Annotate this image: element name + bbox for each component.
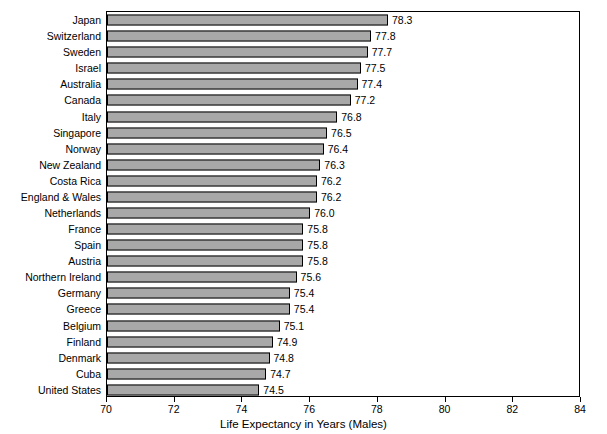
x-tick	[377, 397, 378, 402]
bar-value-label: 75.8	[307, 224, 327, 235]
bar-row: United States74.5	[107, 382, 581, 398]
bar-value-label: 74.8	[274, 352, 294, 363]
category-label: Japan	[72, 15, 101, 26]
bar-row: Sweden77.7	[107, 44, 581, 60]
bar-row: Finland74.9	[107, 334, 581, 350]
category-label: France	[68, 224, 101, 235]
bar-value-label: 77.5	[365, 63, 385, 74]
bar	[107, 384, 259, 395]
bar-row: Netherlands76.0	[107, 205, 581, 221]
bar	[107, 159, 320, 170]
bar	[107, 207, 310, 218]
category-label: Italy	[82, 111, 101, 122]
category-label: Austria	[68, 256, 101, 267]
bar-row: Switzerland77.8	[107, 28, 581, 44]
bar-row: Costa Rica76.2	[107, 173, 581, 189]
x-tick	[174, 397, 175, 402]
category-label: Netherlands	[44, 207, 101, 218]
bars-container: Japan78.3Switzerland77.8Sweden77.7Israel…	[107, 12, 581, 398]
bar-row: France75.8	[107, 221, 581, 237]
bar-row: Austria75.8	[107, 253, 581, 269]
bar-value-label: 76.0	[314, 207, 334, 218]
x-axis-label: Life Expectancy in Years (Males)	[0, 418, 607, 430]
bar-value-label: 75.4	[294, 288, 314, 299]
category-label: Belgium	[63, 320, 101, 331]
x-tick-label: 78	[371, 403, 383, 415]
category-label: New Zealand	[39, 159, 101, 170]
category-label: Costa Rica	[50, 175, 101, 186]
category-label: Denmark	[58, 352, 101, 363]
bar	[107, 352, 270, 363]
x-tick	[445, 397, 446, 402]
category-label: Cuba	[76, 368, 101, 379]
bar-value-label: 74.5	[263, 384, 283, 395]
bar-row: Israel77.5	[107, 60, 581, 76]
bar-value-label: 76.2	[321, 191, 341, 202]
bar-value-label: 77.4	[362, 79, 382, 90]
category-label: Finland	[67, 336, 101, 347]
category-label: Canada	[64, 95, 101, 106]
bar-row: Italy76.8	[107, 108, 581, 124]
category-label: Spain	[74, 240, 101, 251]
x-tick-label: 84	[574, 403, 586, 415]
bar	[107, 224, 303, 235]
category-label: United States	[38, 384, 101, 395]
bar-value-label: 75.4	[294, 304, 314, 315]
bar	[107, 47, 368, 58]
category-label: Israel	[75, 63, 101, 74]
category-label: Greece	[67, 304, 101, 315]
bar-row: Germany75.4	[107, 285, 581, 301]
bar-row: Greece75.4	[107, 301, 581, 317]
bar-row: Denmark74.8	[107, 350, 581, 366]
category-label: Germany	[58, 288, 101, 299]
bar-row: Japan78.3	[107, 12, 581, 28]
bar-value-label: 75.1	[284, 320, 304, 331]
bar	[107, 31, 371, 42]
bar-row: Singapore76.5	[107, 125, 581, 141]
x-tick	[512, 397, 513, 402]
bar	[107, 79, 358, 90]
x-tick-label: 80	[439, 403, 451, 415]
category-label: England & Wales	[21, 191, 101, 202]
bar-row: Canada77.2	[107, 92, 581, 108]
bar-row: Belgium75.1	[107, 317, 581, 333]
x-tick-label: 72	[168, 403, 180, 415]
bar-row: Norway76.4	[107, 141, 581, 157]
bar-row: Australia77.4	[107, 76, 581, 92]
category-label: Switzerland	[47, 31, 101, 42]
bar-value-label: 75.8	[307, 240, 327, 251]
bar-chart: Japan78.3Switzerland77.8Sweden77.7Israel…	[0, 0, 607, 434]
category-label: Norway	[65, 143, 101, 154]
bar	[107, 175, 317, 186]
bar-value-label: 74.9	[277, 336, 297, 347]
bar	[107, 127, 327, 138]
bar	[107, 304, 290, 315]
bar-row: New Zealand76.3	[107, 157, 581, 173]
bar-value-label: 76.3	[324, 159, 344, 170]
bar	[107, 63, 361, 74]
bar-row: Northern Ireland75.6	[107, 269, 581, 285]
bar	[107, 368, 266, 379]
bar	[107, 256, 303, 267]
bar	[107, 336, 273, 347]
bar	[107, 320, 280, 331]
bar	[107, 191, 317, 202]
bar-value-label: 76.4	[328, 143, 348, 154]
bar-value-label: 76.8	[341, 111, 361, 122]
bar-row: Spain75.8	[107, 237, 581, 253]
plot-area: Japan78.3Switzerland77.8Sweden77.7Israel…	[106, 11, 580, 397]
bar	[107, 143, 324, 154]
x-tick	[309, 397, 310, 402]
x-tick	[241, 397, 242, 402]
bar-value-label: 76.5	[331, 127, 351, 138]
category-label: Northern Ireland	[25, 272, 101, 283]
bar	[107, 15, 388, 26]
bar-value-label: 75.8	[307, 256, 327, 267]
bar-value-label: 77.2	[355, 95, 375, 106]
bar-row: Cuba74.7	[107, 366, 581, 382]
x-tick-label: 74	[236, 403, 248, 415]
bar-value-label: 76.2	[321, 175, 341, 186]
bar-value-label: 77.7	[372, 47, 392, 58]
x-tick-label: 76	[303, 403, 315, 415]
bar-row: England & Wales76.2	[107, 189, 581, 205]
